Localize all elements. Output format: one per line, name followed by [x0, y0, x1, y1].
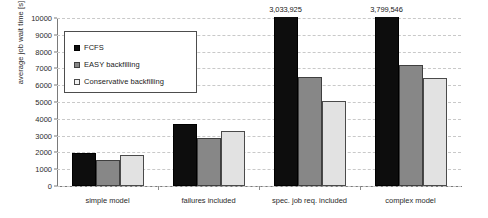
y-tick-label: 9000 — [35, 30, 52, 39]
legend-label-fcfs: FCFS — [84, 43, 104, 52]
x-axis-label: complex model — [385, 196, 435, 205]
bar — [120, 155, 144, 186]
y-axis-title: average job wait time [s] — [16, 0, 25, 118]
bar-group — [259, 18, 360, 186]
legend-item-easy-backfilling: EASY backfilling — [74, 56, 196, 73]
x-axis-label: spec. job req. included — [272, 196, 347, 205]
bar — [72, 153, 96, 186]
x-tick-mark — [259, 186, 260, 190]
bar — [197, 138, 221, 186]
y-tick-label: 8000 — [35, 47, 52, 56]
y-tick-label: 1000 — [35, 165, 52, 174]
bar-value-label: 3,799,546 — [370, 5, 402, 14]
legend-item-conservative-backfilling: Conservative backfilling — [74, 73, 196, 90]
bar-value-label: 3,033,925 — [269, 5, 301, 14]
y-tick-label: 10000 — [31, 14, 52, 23]
x-axis-label: failures included — [181, 196, 235, 205]
y-tick-label: 0 — [48, 182, 52, 191]
x-tick-mark — [360, 186, 361, 190]
y-tick-label: 5000 — [35, 98, 52, 107]
legend-label-conservative-backfilling: Conservative backfilling — [84, 77, 164, 86]
bar — [298, 77, 322, 186]
bar — [173, 124, 197, 186]
y-tick-label: 3000 — [35, 131, 52, 140]
legend-swatch-easy-backfilling — [74, 62, 80, 68]
legend-swatch-fcfs — [74, 45, 80, 51]
bar-chart: average job wait time [s] 01000200030004… — [0, 0, 488, 218]
bar — [96, 160, 120, 186]
y-tick-label: 4000 — [35, 114, 52, 123]
bar-group — [360, 18, 461, 186]
x-tick-mark — [158, 186, 159, 190]
legend-item-fcfs: FCFS — [74, 39, 196, 56]
bar — [322, 101, 346, 186]
legend-label-easy-backfilling: EASY backfilling — [84, 60, 140, 69]
x-axis-label: simple model — [85, 196, 129, 205]
bar — [274, 17, 298, 186]
bar — [221, 131, 245, 186]
y-tick-label: 7000 — [35, 64, 52, 73]
chart-legend: FCFS EASY backfilling Conservative backf… — [64, 31, 197, 93]
bar — [399, 65, 423, 186]
legend-swatch-conservative-backfilling — [74, 79, 80, 85]
bar — [375, 17, 399, 186]
y-tick-label: 2000 — [35, 148, 52, 157]
bar — [423, 78, 447, 186]
y-tick-label: 6000 — [35, 81, 52, 90]
